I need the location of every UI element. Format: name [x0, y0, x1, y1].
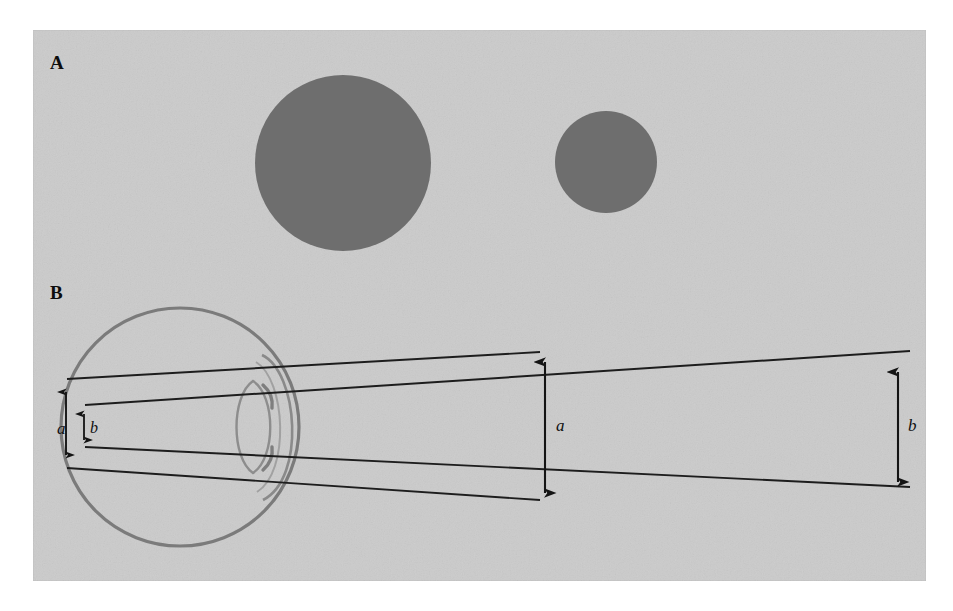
label-retinal-image-b: b: [90, 420, 98, 436]
figure-root: A B a b a b: [0, 0, 953, 611]
panel-label-b: B: [50, 283, 63, 302]
label-object-b: b: [908, 417, 917, 434]
small-disc: [555, 111, 657, 213]
panel-label-a: A: [50, 53, 64, 72]
label-object-a: a: [556, 417, 565, 434]
plate-rect: [33, 30, 926, 581]
figure-plate: [33, 30, 926, 581]
label-retinal-image-a: a: [57, 420, 66, 437]
large-disc: [255, 75, 431, 251]
figure-canvas: [0, 0, 953, 611]
